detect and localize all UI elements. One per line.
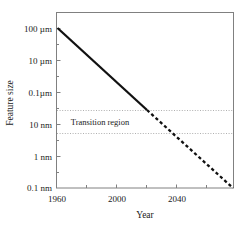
transition-region-label: Transition region	[71, 117, 130, 127]
y-axis-title: Feature size	[5, 80, 15, 126]
y-tick-label-100um: 100 µm	[24, 24, 52, 34]
y-tick-label-10nm: 10 nm	[29, 120, 52, 130]
x-tick-label-2040: 2040	[168, 194, 187, 204]
feature-size-vs-year-chart: 100 µm 10 µm 0.1µm 10 nm 1 nm 0.1 nm 196…	[0, 0, 246, 226]
x-axis-title: Year	[136, 210, 154, 220]
y-tick-label-0.1nm: 0.1 nm	[27, 183, 52, 193]
y-tick-label-10um: 10 µm	[29, 56, 52, 66]
x-tick-label-2000: 2000	[108, 194, 127, 204]
y-tick-label-1nm: 1 nm	[34, 152, 52, 162]
chart-figure: 100 µm 10 µm 0.1µm 10 nm 1 nm 0.1 nm 196…	[0, 0, 246, 226]
y-tick-label-0.1um: 0.1µm	[29, 88, 52, 98]
x-tick-label-1960: 1960	[48, 194, 67, 204]
